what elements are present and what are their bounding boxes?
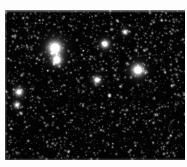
star-field-canvas [5,10,185,160]
screenshot-root [0,0,187,167]
star-field-image [5,10,185,160]
